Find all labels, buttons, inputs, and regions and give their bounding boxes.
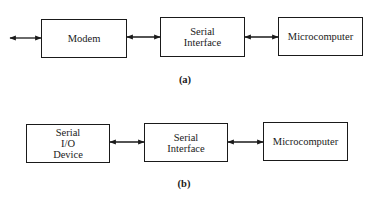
serial-io-device-block: Serial I/O Device [26,124,110,163]
microcomputer-block-b: Microcomputer [263,122,348,161]
serial-io-device-label: Serial I/O Device [53,127,83,160]
modem-block: Modem [41,19,127,58]
serial-interface-label-a: Serial Interface [184,26,221,48]
microcomputer-block-a: Microcomputer [278,17,363,56]
serial-interface-block-b: Serial Interface [144,123,228,162]
serial-interface-block-a: Serial Interface [160,17,245,57]
microcomputer-label-a: Microcomputer [288,31,353,42]
modem-label: Modem [68,33,101,44]
serial-interface-label-b: Serial Interface [167,132,204,154]
microcomputer-label-b: Microcomputer [273,136,338,147]
caption-b: (b) [178,178,191,189]
caption-a: (a) [179,74,191,85]
